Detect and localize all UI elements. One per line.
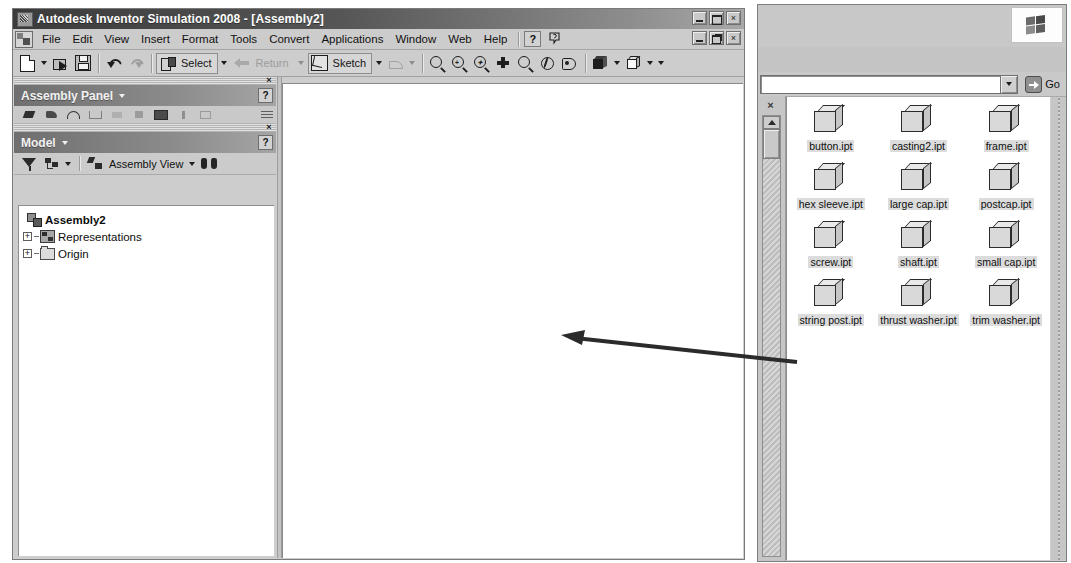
minimize-button[interactable] [692, 11, 707, 25]
zoom-button[interactable] [515, 53, 536, 74]
tree-item-representations[interactable]: + Representations [23, 228, 274, 245]
open-file-button[interactable] [50, 53, 71, 74]
menu-item-window[interactable]: Window [389, 31, 442, 47]
file-item[interactable]: trim washer.ipt [962, 279, 1050, 326]
help-question-icon[interactable]: ? [524, 31, 541, 47]
shadow-button[interactable] [623, 53, 644, 74]
menu-item-view[interactable]: View [98, 31, 135, 47]
assembly-panel-header[interactable]: Assembly Panel ? [14, 85, 276, 106]
address-dropdown-button[interactable] [1001, 75, 1018, 94]
chevron-down-icon[interactable] [62, 141, 68, 145]
sketch-tool-group[interactable]: Sketch [308, 53, 373, 74]
model-panel-help-button[interactable]: ? [258, 135, 273, 150]
measure-icon[interactable] [194, 108, 216, 121]
toolbar-overflow[interactable] [656, 53, 665, 73]
rotate-button[interactable] [537, 53, 558, 74]
whats-this-icon[interactable] [546, 31, 563, 47]
file-item[interactable]: frame.ipt [962, 105, 1050, 152]
select-dropdown[interactable] [220, 53, 229, 73]
assembly-view-button[interactable] [85, 153, 106, 174]
look-at-button[interactable] [559, 53, 580, 74]
file-item[interactable]: small cap.ipt [962, 221, 1050, 268]
select-button[interactable] [157, 53, 178, 74]
file-item[interactable]: string post.ipt [787, 279, 875, 326]
parameters-icon[interactable] [172, 108, 194, 121]
shadow-dropdown[interactable] [645, 53, 654, 73]
assembly-view-dropdown[interactable] [187, 154, 196, 174]
file-label: screw.ipt [808, 256, 853, 268]
create-component-icon[interactable] [40, 108, 62, 121]
zoom-window-button[interactable]: + [449, 53, 470, 74]
new-file-button[interactable] [17, 53, 38, 74]
address-input[interactable] [760, 75, 1001, 94]
file-item[interactable]: hex sleeve.ipt [787, 163, 875, 210]
menu-separator [518, 32, 519, 47]
model-panel-header[interactable]: Model ? [14, 132, 276, 153]
menu-item-web[interactable]: Web [442, 31, 477, 47]
assembly-toolbar-overflow[interactable] [261, 109, 273, 118]
display-mode-dropdown[interactable] [612, 53, 621, 73]
select-tool-group[interactable]: Select [156, 53, 218, 74]
place-component-icon[interactable] [18, 108, 40, 121]
model-browser-tree[interactable]: Assembly2 + Representations + Origin [18, 205, 274, 556]
file-item[interactable]: postcap.ipt [962, 163, 1050, 210]
tree-view-icon [44, 157, 60, 171]
scroll-up-button[interactable] [763, 116, 780, 129]
close-button[interactable]: × [726, 11, 741, 25]
assembly-panel-grip[interactable]: × [14, 77, 276, 85]
expand-icon[interactable]: + [23, 232, 32, 241]
browser-views-button[interactable] [41, 153, 62, 174]
model-panel-grip[interactable]: × [14, 124, 276, 132]
graphics-canvas[interactable] [282, 83, 743, 558]
go-button[interactable]: Go [1025, 76, 1060, 93]
menu-item-insert[interactable]: Insert [135, 31, 176, 47]
bom-icon[interactable] [150, 108, 172, 121]
redo-button[interactable] [125, 53, 146, 74]
vertical-scrollbar[interactable] [762, 115, 781, 557]
menu-item-format[interactable]: Format [176, 31, 224, 47]
constraint-icon[interactable] [62, 108, 84, 121]
browser-filter-button[interactable] [19, 153, 40, 174]
expand-icon[interactable]: + [23, 249, 32, 258]
scrollbar-thumb[interactable] [763, 129, 780, 159]
file-list-pane[interactable]: button.ipt casting2.ipt frame.ipt hex sl… [786, 97, 1050, 560]
menu-item-file[interactable]: File [36, 31, 67, 47]
new-file-dropdown[interactable] [39, 53, 48, 73]
menu-item-convert[interactable]: Convert [263, 31, 315, 47]
browser-views-dropdown[interactable] [63, 154, 72, 174]
tree-item-origin[interactable]: + Origin [23, 245, 274, 262]
pattern-icon[interactable] [84, 108, 106, 121]
maximize-button[interactable] [709, 11, 724, 25]
menu-item-applications[interactable]: Applications [315, 31, 389, 47]
file-item[interactable]: large cap.ipt [875, 163, 963, 210]
mirror-icon[interactable] [106, 108, 128, 121]
file-item[interactable]: shaft.ipt [875, 221, 963, 268]
file-item[interactable]: casting2.ipt [875, 105, 963, 152]
chevron-down-icon[interactable] [119, 94, 125, 98]
chevron-down-icon [221, 61, 227, 65]
mdi-restore-button[interactable] [709, 31, 724, 45]
replace-icon[interactable] [128, 108, 150, 121]
undo-button[interactable] [103, 53, 124, 74]
tree-item-assembly2[interactable]: Assembly2 [23, 211, 274, 228]
document-icon[interactable] [15, 31, 33, 48]
find-button[interactable] [198, 153, 219, 174]
sketch-dropdown[interactable] [374, 53, 383, 73]
menu-item-help[interactable]: Help [478, 31, 514, 47]
sketch-button[interactable] [309, 53, 330, 74]
file-item[interactable]: button.ipt [787, 105, 875, 152]
pan-button[interactable] [493, 53, 514, 74]
sidebar-close-icon[interactable]: × [764, 99, 777, 112]
zoom-all-button[interactable] [427, 53, 448, 74]
file-item[interactable]: screw.ipt [787, 221, 875, 268]
mdi-close-button[interactable]: × [726, 31, 741, 45]
zoom-selected-button[interactable]: ✦ [471, 53, 492, 74]
file-item[interactable]: thrust washer.ipt [875, 279, 963, 326]
menu-item-edit[interactable]: Edit [67, 31, 99, 47]
part-file-icon [988, 279, 1024, 311]
save-button[interactable] [72, 53, 93, 74]
display-mode-button[interactable] [590, 53, 611, 74]
assembly-panel-help-button[interactable]: ? [258, 88, 273, 103]
menu-item-tools[interactable]: Tools [224, 31, 263, 47]
mdi-minimize-button[interactable] [692, 31, 707, 45]
